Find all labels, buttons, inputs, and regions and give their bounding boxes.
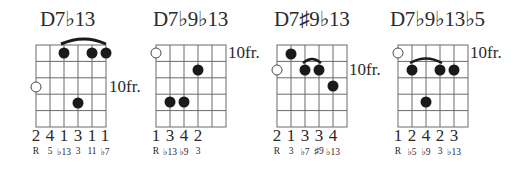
chord-diagram-d7s9b13: D7♯9♭13 10fr. 2 1 3 3 4 R 3 ♭7 ♯9 ♭13 bbox=[241, 0, 371, 169]
fretboard-grid bbox=[362, 0, 492, 140]
open-root-circle bbox=[393, 48, 403, 58]
finger-dot bbox=[73, 98, 84, 109]
finger-dot bbox=[407, 65, 418, 76]
fret-position-label: 10fr. bbox=[470, 43, 502, 63]
fretboard-grid bbox=[120, 0, 250, 140]
finger-dot bbox=[87, 48, 98, 59]
open-root-circle bbox=[151, 48, 161, 58]
finger-dot bbox=[314, 65, 325, 76]
finger-dot bbox=[435, 65, 446, 76]
finger-dot bbox=[101, 48, 112, 59]
finger-dot bbox=[328, 81, 339, 92]
finger-dot bbox=[449, 65, 460, 76]
finger-dot bbox=[286, 49, 297, 60]
open-root-circle bbox=[272, 65, 282, 75]
chord-diagram-d7b9b13: D7♭9♭13 10fr. 1 3 4 2 R ♭13 ♭9 3 bbox=[120, 0, 250, 169]
finger-dot bbox=[421, 97, 432, 108]
chord-diagram-d7b13: D7♭13 10fr. 2 4 1 3 1 1 R 5 ♭13 3 11 ♭7 bbox=[0, 0, 130, 169]
finger-dot bbox=[300, 65, 311, 76]
finger-dot bbox=[179, 97, 190, 108]
finger-dot bbox=[193, 65, 204, 76]
open-root-circle bbox=[31, 82, 41, 92]
chord-diagram-d7b9b13b5: D7♭9♭13♭5 10fr. 1 2 4 2 3 R ♭5 ♭9 3 ♭13 bbox=[362, 0, 492, 169]
fretboard-grid bbox=[0, 0, 130, 140]
finger-dot bbox=[165, 97, 176, 108]
barre-slur bbox=[61, 39, 106, 44]
finger-dot bbox=[59, 48, 70, 59]
